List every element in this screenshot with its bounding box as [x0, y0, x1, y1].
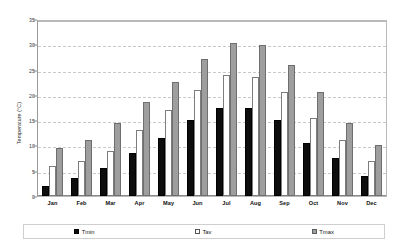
- legend-label: Tmax: [319, 229, 334, 235]
- x-tick-label-feb: Feb: [67, 200, 96, 206]
- x-axis-labels: JanFebMarAprMayJunJulAugSepOctNovDec: [38, 200, 386, 206]
- bar-tmin-aug: [245, 108, 252, 197]
- bar-tav-oct: [310, 118, 317, 196]
- bar-tmin-jan: [42, 186, 49, 196]
- x-tick-label-jul: Jul: [212, 200, 241, 206]
- chart-legend: TminTavTmax: [23, 224, 385, 239]
- month-bar-group: [96, 21, 125, 196]
- bar-tmin-jul: [216, 108, 223, 197]
- bar-tav-jul: [223, 75, 230, 196]
- legend-item-tmin[interactable]: Tmin: [74, 229, 94, 235]
- y-tick-label: 10: [11, 143, 35, 149]
- bar-tav-dec: [368, 161, 375, 196]
- y-tick-label: 15: [11, 118, 35, 124]
- bar-tmin-feb: [71, 178, 78, 196]
- white-square-icon: [195, 229, 200, 234]
- bar-tmin-mar: [100, 168, 107, 196]
- bar-tav-aug: [252, 77, 259, 196]
- bar-tmin-may: [158, 138, 165, 196]
- gray-square-icon: [312, 229, 317, 234]
- bar-tmax-may: [172, 82, 179, 196]
- bar-tmin-sep: [274, 120, 281, 196]
- bar-tmin-jun: [187, 120, 194, 196]
- x-tick-label-dec: Dec: [357, 200, 386, 206]
- y-tick-label: 30: [11, 42, 35, 48]
- y-tick-label: 0: [11, 194, 35, 200]
- bar-tmax-jan: [56, 148, 63, 196]
- bar-tav-jan: [49, 166, 56, 196]
- bar-tav-apr: [136, 130, 143, 196]
- x-tick-label-nov: Nov: [328, 200, 357, 206]
- legend-item-tmax[interactable]: Tmax: [312, 229, 334, 235]
- bar-tmax-sep: [288, 65, 295, 196]
- bar-tav-mar: [107, 151, 114, 197]
- x-tick-label-aug: Aug: [241, 200, 270, 206]
- x-tick-label-oct: Oct: [299, 200, 328, 206]
- y-tick-label: 35: [11, 17, 35, 23]
- x-tick-label-apr: Apr: [125, 200, 154, 206]
- legend-label: Tmin: [82, 229, 95, 235]
- legend-label: Tav: [202, 229, 211, 235]
- bar-tmax-dec: [375, 145, 382, 196]
- x-tick-label-jun: Jun: [183, 200, 212, 206]
- bar-tav-nov: [339, 140, 346, 196]
- bar-tmax-mar: [114, 123, 121, 196]
- legend-item-tav[interactable]: Tav: [195, 229, 212, 235]
- bar-tmax-oct: [317, 92, 324, 196]
- temperature-bar-chart: Temperature (°C) 05101520253035 JanFebMa…: [0, 0, 407, 245]
- x-tick-label-sep: Sep: [270, 200, 299, 206]
- month-bar-group: [357, 21, 386, 196]
- bar-tmax-aug: [259, 45, 266, 196]
- bar-tav-jun: [194, 90, 201, 196]
- x-tick-label-may: May: [154, 200, 183, 206]
- month-bar-group: [125, 21, 154, 196]
- month-bar-group: [67, 21, 96, 196]
- month-bar-group: [154, 21, 183, 196]
- bar-tmin-nov: [332, 158, 339, 196]
- y-tick-label: 5: [11, 169, 35, 175]
- x-tick-label-jan: Jan: [38, 200, 67, 206]
- month-bar-group: [38, 21, 67, 196]
- month-bar-group: [270, 21, 299, 196]
- bar-tmin-apr: [129, 153, 136, 196]
- bar-tav-sep: [281, 92, 288, 196]
- bar-groups: [38, 21, 386, 196]
- bar-tmax-apr: [143, 102, 150, 196]
- bar-tav-feb: [78, 161, 85, 196]
- bar-tmin-dec: [361, 176, 368, 196]
- black-square-icon: [74, 229, 79, 234]
- x-tick-label-mar: Mar: [96, 200, 125, 206]
- bar-tmax-jun: [201, 59, 208, 196]
- y-tick-label: 20: [11, 93, 35, 99]
- bar-tav-may: [165, 110, 172, 196]
- month-bar-group: [183, 21, 212, 196]
- bar-tmax-jul: [230, 43, 237, 196]
- month-bar-group: [212, 21, 241, 196]
- y-tick-label: 25: [11, 68, 35, 74]
- bar-tmax-feb: [85, 140, 92, 196]
- month-bar-group: [241, 21, 270, 196]
- month-bar-group: [299, 21, 328, 196]
- bar-tmin-oct: [303, 143, 310, 196]
- month-bar-group: [328, 21, 357, 196]
- bar-tmax-nov: [346, 123, 353, 196]
